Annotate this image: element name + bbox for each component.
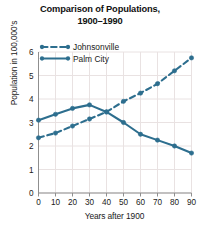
data-point-johnsonville: [172, 69, 176, 73]
data-point-palm-city: [189, 151, 193, 155]
x-axis-tick-label: 80: [170, 198, 180, 207]
x-axis-ticks: [39, 193, 192, 197]
legend-marker-johnsonville: [40, 45, 44, 49]
y-axis-tick-labels: 0123456: [29, 48, 34, 198]
data-point-johnsonville: [155, 82, 159, 86]
legend-label-palm-city: Palm City: [73, 54, 110, 64]
y-axis-tick-label: 1: [29, 166, 34, 175]
data-point-palm-city: [104, 110, 108, 114]
data-point-johnsonville: [36, 136, 40, 140]
plot-area: 0123456 0102030405060708090 Johnsonville…: [0, 0, 200, 229]
series-line-johnsonville: [39, 58, 192, 138]
data-point-palm-city: [87, 103, 91, 107]
y-axis-tick-label: 3: [29, 119, 34, 128]
data-point-johnsonville: [70, 124, 74, 128]
x-axis-tick-label: 20: [68, 198, 78, 207]
data-point-johnsonville: [189, 56, 193, 60]
y-axis-tick-label: 4: [29, 95, 34, 104]
x-axis-tick-label: 0: [36, 198, 41, 207]
data-point-palm-city: [138, 132, 142, 136]
chart-figure: Comparison of Populations, 1900–1990 Pop…: [0, 0, 200, 229]
data-point-palm-city: [121, 120, 125, 124]
legend-label-johnsonville: Johnsonville: [73, 42, 119, 52]
gridlines: [39, 52, 192, 193]
data-point-johnsonville: [121, 99, 125, 103]
data-point-palm-city: [53, 112, 57, 116]
y-axis-tick-label: 2: [29, 142, 34, 151]
y-axis-tick-label: 5: [29, 72, 34, 81]
data-point-palm-city: [36, 118, 40, 122]
data-point-johnsonville: [87, 117, 91, 121]
data-point-palm-city: [155, 138, 159, 142]
x-axis-tick-label: 30: [85, 198, 95, 207]
data-point-palm-city: [70, 106, 74, 110]
x-axis-tick-label: 70: [153, 198, 163, 207]
x-axis-tick-label: 10: [51, 198, 61, 207]
legend-marker-johnsonville: [66, 45, 70, 49]
data-series-layer: [36, 56, 193, 155]
x-axis-tick-labels: 0102030405060708090: [36, 198, 196, 207]
x-axis-tick-label: 50: [119, 198, 129, 207]
chart-legend: JohnsonvillePalm City: [40, 42, 120, 64]
y-axis-tick-label: 0: [29, 189, 34, 198]
data-point-johnsonville: [53, 131, 57, 135]
x-axis-tick-label: 60: [136, 198, 146, 207]
legend-marker-palm-city: [40, 56, 44, 60]
data-point-palm-city: [172, 144, 176, 148]
x-axis-tick-label: 90: [187, 198, 197, 207]
x-axis-tick-label: 40: [102, 198, 112, 207]
legend-marker-palm-city: [66, 56, 70, 60]
data-point-johnsonville: [138, 91, 142, 95]
y-axis-tick-label: 6: [29, 48, 34, 57]
